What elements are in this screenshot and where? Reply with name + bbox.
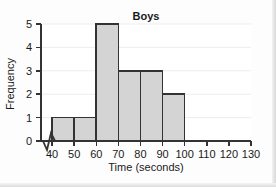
histogram-bar	[118, 71, 140, 141]
y-tick-label: 0	[26, 135, 32, 147]
x-tick-label: 60	[90, 148, 102, 160]
y-axis-label: Frequency	[4, 58, 16, 110]
x-tick-label: 120	[220, 148, 238, 160]
y-axis-tick-labels: 012345	[26, 18, 32, 147]
y-tick-label: 1	[26, 112, 32, 124]
histogram-bar	[52, 118, 74, 141]
y-tick-label: 3	[26, 65, 32, 77]
x-tick-label: 110	[198, 148, 216, 160]
x-tick-label: 70	[112, 148, 124, 160]
x-axis-tick-labels: 405060708090100110120130	[46, 148, 260, 160]
y-tick-label: 5	[26, 18, 32, 30]
histogram-bar	[74, 118, 96, 141]
x-tick-label: 100	[176, 148, 194, 160]
x-tick-label: 40	[46, 148, 58, 160]
x-tick-label: 90	[156, 148, 168, 160]
x-tick-label: 130	[242, 148, 260, 160]
x-axis-label: Time (seconds)	[108, 161, 183, 173]
histogram-bar	[96, 24, 118, 141]
histogram-bar	[163, 94, 185, 141]
histogram-chart: 405060708090100110120130 012345 Boys Tim…	[0, 0, 276, 187]
y-tick-label: 4	[26, 41, 32, 53]
y-tick-label: 2	[26, 88, 32, 100]
chart-title: Boys	[133, 10, 160, 22]
x-tick-label: 50	[68, 148, 80, 160]
x-tick-label: 80	[134, 148, 146, 160]
histogram-bar	[140, 71, 162, 141]
figure-container: 405060708090100110120130 012345 Boys Tim…	[0, 0, 276, 187]
